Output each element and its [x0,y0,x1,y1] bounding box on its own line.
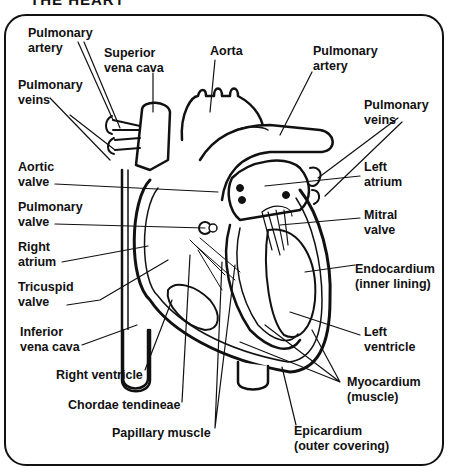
label-left-ventricle: Left ventricle [364,325,415,355]
label-pulmonary-valve: Pulmonary valve [18,200,83,230]
label-endocardium: Endocardium (inner lining) [355,262,435,292]
label-inferior-vena-cava: Inferior vena cava [20,325,80,355]
label-right-atrium: Right atrium [18,240,56,270]
label-pulmonary-veins-right: Pulmonary veins [364,98,429,128]
label-chordae-tendineae: Chordae tendineae [68,398,181,413]
label-superior-vena-cava: Superior vena cava [104,46,164,76]
label-mitral-valve: Mitral valve [364,208,397,238]
label-myocardium: Myocardium (muscle) [347,375,421,405]
label-pulmonary-artery-left: Pulmonary artery [28,26,93,56]
label-aortic-valve: Aortic valve [18,160,54,190]
label-aorta: Aorta [210,44,243,59]
label-tricuspid-valve: Tricuspid valve [18,280,74,310]
label-epicardium: Epicardium (outer covering) [294,424,389,454]
label-right-ventricle: Right ventricle [56,368,143,383]
label-papillary-muscle: Papillary muscle [112,426,211,441]
label-pulmonary-artery-right: Pulmonary artery [313,44,378,74]
label-pulmonary-veins-left: Pulmonary veins [18,78,83,108]
label-left-atrium: Left atrium [364,160,402,190]
